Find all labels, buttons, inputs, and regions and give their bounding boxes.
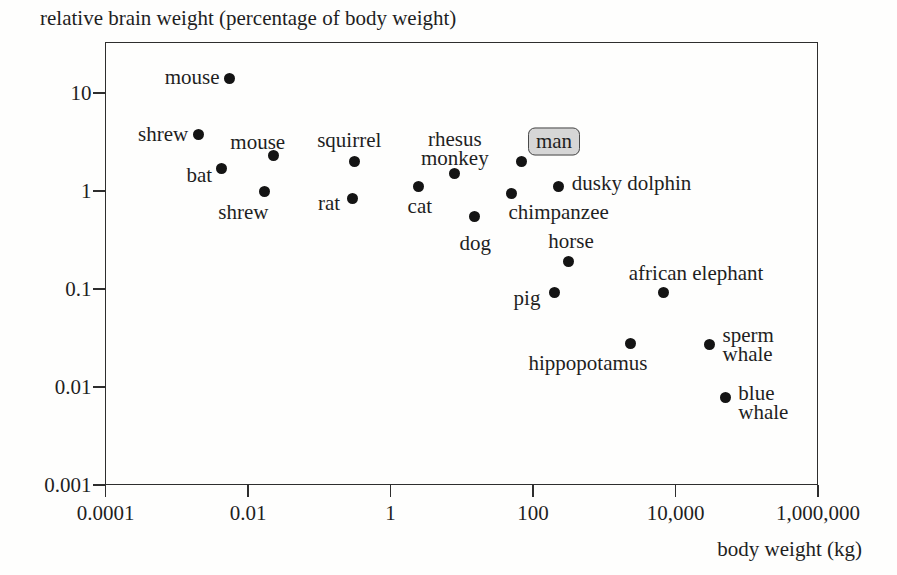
point-label-dog: dog <box>460 234 492 253</box>
point-label-rat: rat <box>318 194 340 213</box>
data-point-bat <box>216 163 227 174</box>
point-label-hippopotamus: hippopotamus <box>529 354 648 373</box>
x-tick <box>247 485 249 497</box>
point-label-bat: bat <box>187 166 213 185</box>
y-tick <box>93 386 105 388</box>
point-label-dusky-dolphin: dusky dolphin <box>572 173 692 192</box>
x-tick-label: 1 <box>326 502 456 524</box>
y-tick-label: 1 <box>30 180 92 202</box>
point-label-pig: pig <box>514 289 541 308</box>
point-label-mouse-high: mouse <box>165 67 220 86</box>
data-point-squirrel <box>349 156 360 167</box>
point-label-mouse-low: mouse <box>230 132 285 151</box>
data-point-blue-whale <box>720 392 731 403</box>
data-point-african-elephant <box>658 287 669 298</box>
point-label-rhesus-monkey: rhesus monkey <box>421 130 489 168</box>
x-tick-label: 100 <box>468 502 598 524</box>
x-tick <box>105 485 107 497</box>
x-tick <box>390 485 392 497</box>
x-tick-label: 1,000,000 <box>753 502 883 524</box>
x-tick <box>532 485 534 497</box>
y-tick <box>93 92 105 94</box>
point-label-horse: horse <box>548 231 594 250</box>
point-label-squirrel: squirrel <box>317 131 381 150</box>
point-label-shrew-low: shrew <box>218 203 268 222</box>
y-tick-label: 10 <box>30 82 92 104</box>
point-label-sperm-whale: sperm whale <box>722 326 773 364</box>
point-label-shrew-high: shrew <box>138 125 188 144</box>
y-tick <box>93 190 105 192</box>
y-tick <box>93 484 105 486</box>
y-tick-label: 0.1 <box>30 278 92 300</box>
chart-title: relative brain weight (percentage of bod… <box>40 6 456 31</box>
point-label-blue-whale: blue whale <box>738 384 788 422</box>
data-point-pig <box>549 287 560 298</box>
x-axis-label: body weight (kg) <box>717 537 862 562</box>
data-point-shrew-low <box>259 186 270 197</box>
y-tick-label: 0.01 <box>30 376 92 398</box>
x-tick-label: 10,000 <box>611 502 741 524</box>
x-tick <box>817 485 819 497</box>
data-point-dog <box>469 211 480 222</box>
point-label-chimpanzee: chimpanzee <box>509 202 609 221</box>
data-point-hippopotamus <box>625 338 636 349</box>
point-label-african-elephant: african elephant <box>629 264 764 283</box>
chart-canvas: relative brain weight (percentage of bod… <box>0 0 897 575</box>
data-point-rat <box>347 193 358 204</box>
man-label-box: man <box>528 128 580 156</box>
data-point-shrew-high <box>193 129 204 140</box>
y-tick-label: 0.001 <box>30 474 92 496</box>
x-tick-label: 0.01 <box>183 502 313 524</box>
x-tick <box>675 485 677 497</box>
x-tick-label: 0.0001 <box>41 502 171 524</box>
point-label-man: man <box>528 131 580 152</box>
point-label-cat: cat <box>408 196 432 215</box>
y-tick <box>93 288 105 290</box>
